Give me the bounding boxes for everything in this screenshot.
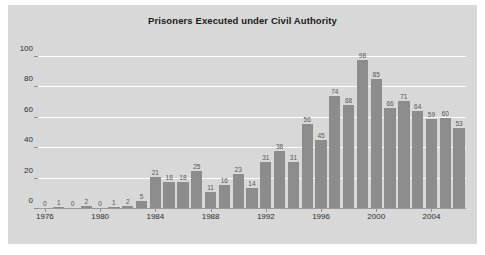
bar[interactable] [163, 182, 174, 209]
bar-slot[interactable]: 0 [38, 49, 52, 209]
bar-slot[interactable]: 18 [162, 49, 176, 209]
bar-value-label: 0 [43, 200, 47, 207]
plot-area: 020406080100 010201252118182511162314313… [38, 49, 466, 209]
x-tick-mark [431, 209, 432, 212]
bar[interactable] [343, 105, 354, 209]
x-tick-label: 2004 [423, 212, 441, 221]
bar-value-label: 31 [262, 154, 269, 161]
bar-slot[interactable]: 23 [231, 49, 245, 209]
y-tick-label: 40 [24, 135, 33, 144]
bar-slot[interactable]: 21 [148, 49, 162, 209]
x-tick-mark [100, 209, 101, 212]
bar-value-label: 64 [414, 103, 421, 110]
bar-slot[interactable]: 31 [287, 49, 301, 209]
x-axis-baseline [38, 208, 466, 209]
bar-value-label: 0 [71, 200, 75, 207]
bar[interactable] [412, 111, 423, 209]
bar-slot[interactable]: 18 [176, 49, 190, 209]
y-tick-label: 60 [24, 104, 33, 113]
bar-value-label: 71 [400, 93, 407, 100]
bar-value-label: 45 [317, 132, 324, 139]
bar-slot[interactable]: 53 [452, 49, 466, 209]
y-tick-label: 0 [29, 196, 33, 205]
bar-value-label: 21 [152, 169, 159, 176]
bar-value-label: 1 [57, 199, 61, 206]
bar-value-label: 38 [276, 143, 283, 150]
bar-value-label: 18 [179, 174, 186, 181]
bar-slot[interactable]: 0 [93, 49, 107, 209]
bar-slot[interactable]: 60 [438, 49, 452, 209]
y-tick-label: 20 [24, 165, 33, 174]
bar-slot[interactable]: 25 [190, 49, 204, 209]
bar-slot[interactable]: 45 [314, 49, 328, 209]
bar-slot[interactable]: 38 [273, 49, 287, 209]
x-tick-label: 1980 [91, 212, 109, 221]
bar-value-label: 23 [235, 166, 242, 173]
x-tick-label: 2000 [367, 212, 385, 221]
x-tick-label: 1992 [257, 212, 275, 221]
bar[interactable] [205, 192, 216, 209]
bar[interactable] [150, 177, 161, 209]
bar-value-label: 5 [140, 193, 144, 200]
bar[interactable] [315, 140, 326, 209]
bar-value-label: 2 [84, 198, 88, 205]
bar[interactable] [274, 151, 285, 209]
x-tick-label: 1996 [312, 212, 330, 221]
bar[interactable] [357, 60, 368, 209]
bar-slot[interactable]: 1 [52, 49, 66, 209]
bar-slot[interactable]: 5 [135, 49, 149, 209]
bar-slot[interactable]: 31 [259, 49, 273, 209]
bar-value-label: 14 [248, 180, 255, 187]
x-tick-label: 1984 [146, 212, 164, 221]
bar-slot[interactable]: 64 [411, 49, 425, 209]
x-tick-mark [155, 209, 156, 212]
bar[interactable] [219, 185, 230, 209]
x-tick-mark [376, 209, 377, 212]
bar[interactable] [233, 174, 244, 209]
bar-slot[interactable]: 56 [300, 49, 314, 209]
y-tick-label: 80 [24, 74, 33, 83]
bar-slot[interactable]: 11 [204, 49, 218, 209]
bar-value-label: 68 [345, 97, 352, 104]
bar[interactable] [384, 108, 395, 209]
bar-slot[interactable]: 16 [217, 49, 231, 209]
bar-slot[interactable]: 66 [383, 49, 397, 209]
bar-value-label: 25 [193, 163, 200, 170]
bar[interactable] [398, 101, 409, 209]
bar-slot[interactable]: 59 [425, 49, 439, 209]
bar[interactable] [246, 188, 257, 209]
x-tick-mark [211, 209, 212, 212]
bar-value-label: 53 [455, 120, 462, 127]
bar-slot[interactable]: 14 [245, 49, 259, 209]
bars-container: 0102012521181825111623143138315645746898… [38, 49, 466, 209]
x-tick-label: 1988 [202, 212, 220, 221]
bar-slot[interactable]: 71 [397, 49, 411, 209]
bar[interactable] [177, 182, 188, 209]
x-axis: 19761980198419881992199620002004 [38, 211, 466, 227]
bar[interactable] [191, 171, 202, 209]
bar-slot[interactable]: 98 [356, 49, 370, 209]
bar[interactable] [426, 119, 437, 209]
bar-value-label: 98 [359, 52, 366, 59]
bar[interactable] [288, 162, 299, 209]
bar-slot[interactable]: 74 [328, 49, 342, 209]
bar[interactable] [453, 128, 464, 209]
bar[interactable] [302, 124, 313, 209]
bar-value-label: 85 [373, 71, 380, 78]
bar[interactable] [329, 96, 340, 209]
bar-slot[interactable]: 0 [66, 49, 80, 209]
bar-slot[interactable]: 85 [369, 49, 383, 209]
bar-value-label: 0 [98, 200, 102, 207]
bar-slot[interactable]: 68 [342, 49, 356, 209]
bar-slot[interactable]: 1 [107, 49, 121, 209]
bar-slot[interactable]: 2 [121, 49, 135, 209]
bar-value-label: 74 [331, 88, 338, 95]
bar-value-label: 18 [166, 174, 173, 181]
bar-value-label: 66 [386, 100, 393, 107]
bar[interactable] [260, 162, 271, 209]
bar[interactable] [371, 79, 382, 209]
bar-value-label: 56 [304, 116, 311, 123]
bar-slot[interactable]: 2 [79, 49, 93, 209]
bar[interactable] [440, 118, 451, 209]
x-tick-mark [45, 209, 46, 212]
